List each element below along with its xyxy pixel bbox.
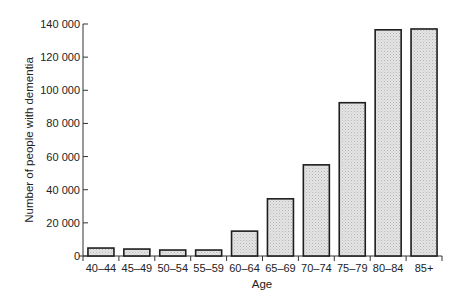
y-tick-label: 60 000	[46, 151, 80, 163]
bar-45-49	[124, 249, 150, 256]
y-tick-label: 40 000	[46, 184, 80, 196]
bar-50-54	[160, 250, 186, 256]
y-tick-label: 120 000	[40, 51, 80, 63]
bar-80-84	[375, 30, 401, 256]
bar-75-79	[339, 103, 365, 256]
bar-85+	[411, 29, 437, 256]
x-tick-label: 80–84	[373, 262, 404, 274]
y-tick-label: 20 000	[46, 217, 80, 229]
x-tick-label: 45–49	[122, 262, 153, 274]
x-tick-label: 70–74	[301, 262, 332, 274]
y-tick-label: 140 000	[40, 18, 80, 30]
x-tick-label: 75–79	[337, 262, 368, 274]
x-tick-label: 40–44	[86, 262, 117, 274]
x-tick-label: 65–69	[265, 262, 296, 274]
y-tick-label: 100 000	[40, 84, 80, 96]
y-axis: 020 00040 00060 00080 000100 000120 0001…	[40, 18, 88, 262]
bar-40-44	[88, 248, 114, 256]
bars	[88, 29, 437, 256]
bar-55-59	[196, 250, 222, 256]
bar-60-64	[232, 231, 258, 256]
x-tick-label: 60–64	[229, 262, 260, 274]
x-tick-label: 55–59	[193, 262, 224, 274]
bar-chart: 020 00040 00060 00080 000100 000120 0001…	[0, 0, 460, 303]
bar-70-74	[303, 165, 329, 256]
y-tick-label: 80 000	[46, 117, 80, 129]
bar-65-69	[267, 199, 293, 256]
y-axis-title: Number of people with dementia	[23, 57, 35, 223]
x-tick-label: 85+	[415, 262, 434, 274]
x-axis-title: Age	[252, 278, 272, 290]
x-axis: 40–4445–4950–5455–5960–6465–6970–7475–79…	[79, 256, 442, 274]
x-tick-label: 50–54	[157, 262, 188, 274]
